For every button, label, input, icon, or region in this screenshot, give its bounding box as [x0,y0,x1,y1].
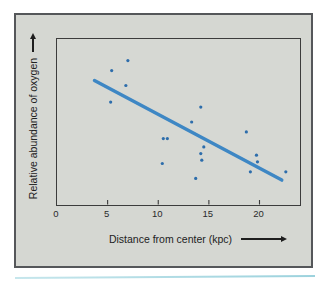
data-point [256,160,259,163]
x-tick-label: 15 [203,208,214,219]
x-tick-label: 5 [104,208,109,219]
data-point [126,59,129,62]
data-point [194,177,197,180]
x-axis-label: Distance from center (kpc) [109,233,281,245]
data-point [199,105,202,108]
scatter-plot [57,39,300,205]
data-point [166,137,169,140]
y-axis-label: Relative abundance of oxygen [25,39,41,199]
data-point [110,69,113,72]
data-point [200,159,203,162]
y-axis-arrow-icon [32,39,33,52]
plot-area [56,38,301,206]
figure-panel: Relative abundance of oxygen 05101520 Di… [14,13,313,268]
data-point [190,120,193,123]
page: Relative abundance of oxygen 05101520 Di… [0,0,325,284]
data-point [199,152,202,155]
data-point [109,100,112,103]
x-tick-labels: 05101520 [56,208,301,220]
x-axis-label-text: Distance from center (kpc) [109,233,232,245]
y-axis-label-text: Relative abundance of oxygen [27,58,39,199]
data-point [255,154,258,157]
data-point [161,162,164,165]
x-axis-arrow-icon [241,238,281,239]
decorative-rule [15,275,315,279]
data-point [202,145,205,148]
data-point [249,170,252,173]
trend-line [94,81,281,181]
data-point [124,84,127,87]
data-point [284,170,287,173]
x-tick-label: 0 [53,208,58,219]
x-tick-label: 10 [152,208,163,219]
data-point [245,130,248,133]
x-tick-label: 20 [253,208,264,219]
data-point [162,137,165,140]
